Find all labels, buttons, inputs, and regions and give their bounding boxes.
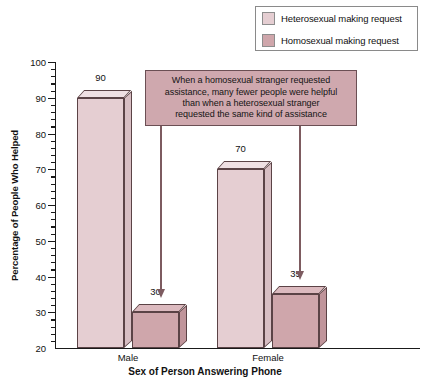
y-tick-minor [51,305,55,306]
y-tick-minor [51,191,55,192]
arrow-head-icon [157,289,165,298]
y-tick-minor [51,119,55,120]
x-axis-category-male: Male [118,352,139,363]
y-axis-title: Percentage of People Who Helped [8,62,22,348]
bar-female-homosexual[interactable]: 35 [272,294,319,348]
y-tick-minor [51,148,55,149]
y-tick-minor [51,141,55,142]
y-tick-minor [51,284,55,285]
bar-top-face [217,161,264,169]
y-axis-label: 20 [35,343,46,354]
y-axis-label: 30 [35,307,46,318]
y-tick-40 [48,277,55,278]
y-tick-minor [51,126,55,127]
bar-front-face [77,98,124,348]
y-tick-minor [51,162,55,163]
y-axis-label: 70 [35,164,46,175]
y-tick-minor [51,291,55,292]
annotation-text: When a homosexual stranger requested ass… [165,75,338,121]
bar-side-face [264,169,272,348]
bar-value-label: 90 [95,72,106,83]
y-tick-60 [48,205,55,206]
bar-male-heterosexual[interactable]: 90 [77,98,124,348]
y-tick-minor [51,76,55,77]
y-tick-minor [51,198,55,199]
y-axis-label: 40 [35,271,46,282]
bar-top-face [132,304,179,312]
y-tick-minor [51,248,55,249]
bar-side-face [124,98,132,348]
y-axis-line [55,62,56,349]
y-tick-minor [51,219,55,220]
y-tick-70 [48,169,55,170]
y-tick-minor [51,91,55,92]
y-tick-minor [51,105,55,106]
y-tick-minor [51,255,55,256]
y-axis-label: 100 [30,57,46,68]
chart-legend: Heterosexual making request Homosexual m… [255,6,418,51]
y-tick-minor [51,184,55,185]
arrow-head-icon [296,271,304,280]
y-tick-100 [48,62,55,63]
y-tick-minor [51,319,55,320]
bar-chart: Heterosexual making request Homosexual m… [0,0,425,388]
y-tick-minor [51,262,55,263]
bar-top-face [77,90,124,98]
y-tick-minor [51,69,55,70]
bar-front-face [217,169,264,348]
legend-item-label: Homosexual making request [281,35,399,46]
y-tick-minor [51,212,55,213]
annotation-callout: When a homosexual stranger requested ass… [145,70,357,126]
y-tick-minor [51,176,55,177]
legend-item-heterosexual: Heterosexual making request [256,7,417,29]
y-tick-30 [48,312,55,313]
y-axis-label: 50 [35,235,46,246]
y-tick-minor [51,341,55,342]
y-tick-50 [48,241,55,242]
legend-swatch-icon [262,34,275,47]
y-tick-90 [48,98,55,99]
y-axis-label: 60 [35,200,46,211]
bar-front-face [272,294,319,348]
y-tick-minor [51,234,55,235]
y-tick-minor [51,155,55,156]
y-tick-minor [51,334,55,335]
y-axis-label: 80 [35,128,46,139]
bar-top-face [272,286,319,294]
y-axis-label: 90 [35,92,46,103]
bar-front-face [132,312,179,348]
legend-item-homosexual: Homosexual making request [256,29,417,51]
bar-value-label: 70 [235,143,246,154]
y-tick-80 [48,134,55,135]
y-tick-minor [51,269,55,270]
y-tick-minor [51,298,55,299]
legend-item-label: Heterosexual making request [281,13,402,24]
bar-side-face [319,294,327,348]
x-axis-category-female: Female [252,352,284,363]
bar-side-face [179,312,187,348]
y-tick-minor [51,83,55,84]
bar-male-homosexual[interactable]: 30 [132,312,179,348]
y-tick-minor [51,327,55,328]
arrow-shaft [299,126,301,271]
y-axis-title-text: Percentage of People Who Helped [10,129,21,280]
y-tick-minor [51,112,55,113]
x-axis-title: Sex of Person Answering Phone [55,366,355,377]
arrow-shaft [160,126,162,289]
legend-swatch-icon [262,12,275,25]
bar-female-heterosexual[interactable]: 70 [217,169,264,348]
y-tick-minor [51,226,55,227]
